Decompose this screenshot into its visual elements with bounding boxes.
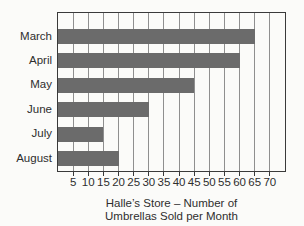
umbrella-sales-figure: MarchAprilMayJuneJulyAugust 510152025303… bbox=[0, 0, 304, 226]
caption-line-2: Umbrellas Sold per Month bbox=[57, 210, 286, 223]
bar-july bbox=[58, 127, 103, 142]
plot-area bbox=[57, 12, 286, 172]
month-label-march: March bbox=[0, 29, 52, 43]
gridline-70 bbox=[269, 13, 270, 171]
caption-line-1: Halle’s Store – Number of bbox=[57, 197, 286, 210]
bar-august bbox=[58, 151, 119, 166]
bar-may bbox=[58, 78, 194, 93]
bar-june bbox=[58, 102, 149, 117]
chart-caption: Halle’s Store – Number of Umbrellas Sold… bbox=[57, 197, 286, 223]
bar-march bbox=[58, 29, 255, 44]
month-label-june: June bbox=[0, 102, 52, 116]
x-tick-label-70: 70 bbox=[258, 176, 282, 188]
month-label-august: August bbox=[0, 151, 52, 165]
bar-april bbox=[58, 53, 240, 68]
month-label-april: April bbox=[0, 53, 52, 67]
month-label-may: May bbox=[0, 77, 52, 91]
month-label-july: July bbox=[0, 126, 52, 140]
